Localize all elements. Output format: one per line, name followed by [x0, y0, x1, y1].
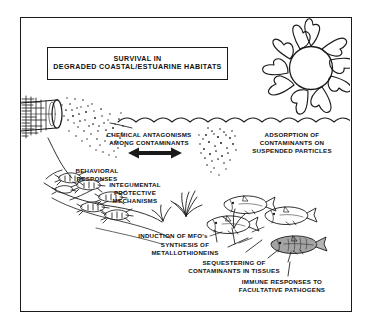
caption-line: METALLOTHIONEINS	[142, 249, 228, 257]
caption-induction-mfo: INDUCTION OF MFO's	[131, 232, 215, 240]
title-line-2: DEGRADED COASTAL/ESTUARINE HABITATS	[53, 64, 221, 72]
caption-line: SEQUESTERING OF	[180, 259, 288, 267]
caption-line: INTEGUMENTAL	[92, 181, 178, 189]
caption-sequestering-contaminants: SEQUESTERING OF CONTAMINANTS IN TISSUES	[180, 259, 288, 275]
caption-chemical-antagonisms: CHEMICAL ANTAGONISMS AMONG CONTAMINANTS	[95, 131, 203, 147]
caption-line: ADSORPTION OF	[238, 131, 346, 139]
caption-line: MECHANISMS	[92, 197, 178, 205]
figure-title-box: SURVIVAL IN DEGRADED COASTAL/ESTUARINE H…	[47, 47, 228, 80]
figure-root: SURVIVAL IN DEGRADED COASTAL/ESTUARINE H…	[0, 0, 372, 331]
caption-line: SUSPENDED PARTICLES	[238, 147, 346, 155]
caption-line: AMONG CONTAMINANTS	[95, 139, 203, 147]
caption-line: SYNTHESIS OF	[142, 241, 228, 249]
caption-line: CONTAMINANTS ON	[238, 139, 346, 147]
caption-integumental-protective-mechanisms: INTEGUMENTAL PROTECTIVE MECHANISMS	[92, 181, 178, 204]
caption-line: FACULTATIVE PATHOGENS	[228, 286, 336, 294]
caption-line: CHEMICAL ANTAGONISMS	[95, 131, 203, 139]
caption-line: INDUCTION OF MFO's	[131, 232, 215, 240]
caption-adsorption: ADSORPTION OF CONTAMINANTS ON SUSPENDED …	[238, 131, 346, 154]
caption-synthesis-metallothioneins: SYNTHESIS OF METALLOTHIONEINS	[142, 241, 228, 257]
caption-immune-responses: IMMUNE RESPONSES TO FACULTATIVE PATHOGEN…	[228, 278, 336, 294]
caption-line: BEHAVIORAL	[62, 167, 132, 175]
caption-line: CONTAMINANTS IN TISSUES	[180, 267, 288, 275]
caption-line: PROTECTIVE	[92, 189, 178, 197]
caption-line: IMMUNE RESPONSES TO	[228, 278, 336, 286]
